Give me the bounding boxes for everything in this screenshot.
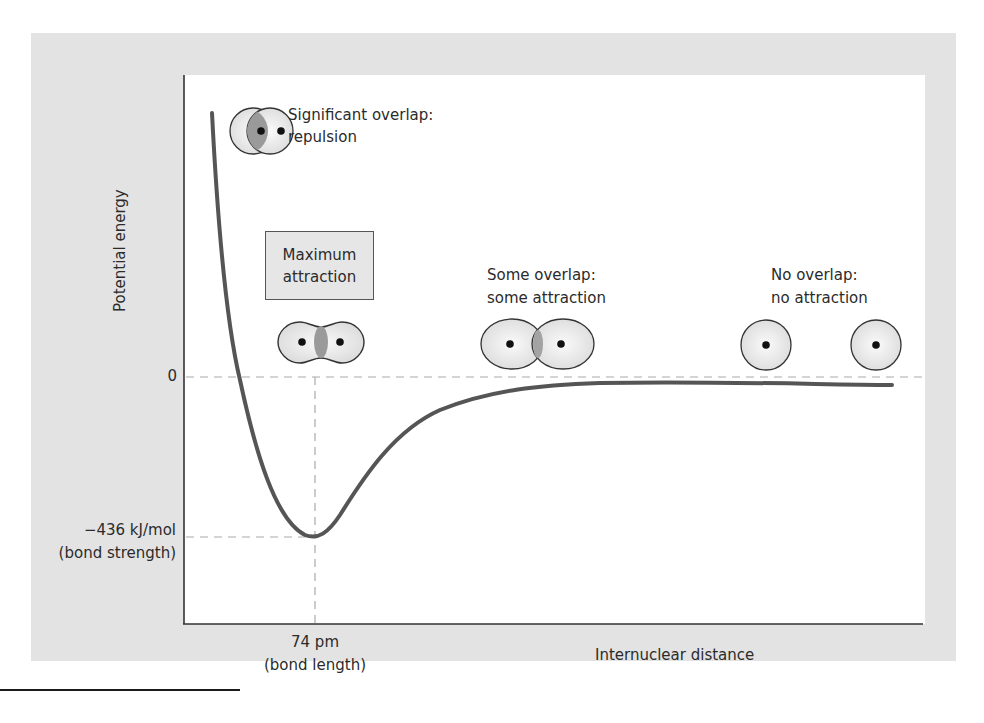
some-overlap-icon [481,319,594,369]
some-overlap-label-line1: Some overlap: [487,265,596,285]
some-overlap-label-line2: some attraction [487,288,606,308]
bond-length-note: (bond length) [255,655,375,675]
repulsion-label-line2: repulsion [288,127,357,147]
x-axis-label: Internuclear distance [595,645,754,665]
min-energy-label: −436 kJ/mol [20,520,176,540]
bond-strength-label: (bond strength) [20,543,176,563]
maximum-attraction-box: Maximum attraction [265,231,374,300]
footer-rule [0,689,240,691]
max-label-line1: Maximum [283,244,357,266]
repulsion-label-line1: Significant overlap: [288,105,433,125]
energy-chart [0,0,984,723]
no-overlap-icon [741,320,901,370]
zero-tick-label: 0 [150,366,177,386]
maximum-attraction-icon [278,322,364,363]
max-label-line2: attraction [283,266,356,288]
y-axis-label: Potential energy [111,189,129,312]
bond-length-tick-label: 74 pm [255,632,375,652]
significant-overlap-icon [230,108,293,154]
no-overlap-label-line2: no attraction [771,288,868,308]
no-overlap-label-line1: No overlap: [771,265,858,285]
